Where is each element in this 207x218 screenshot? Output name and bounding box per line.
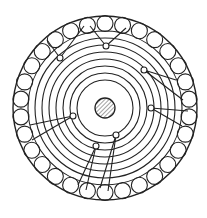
peripheral-circle — [24, 142, 40, 158]
peripheral-circle — [34, 43, 50, 59]
peripheral-circle — [170, 58, 186, 74]
peripheral-circle — [147, 32, 163, 48]
lead-line — [144, 70, 176, 80]
lead-node — [93, 143, 99, 149]
peripheral-circle — [97, 16, 113, 32]
lead-line — [90, 26, 106, 46]
peripheral-circle — [181, 109, 197, 125]
lead-node — [141, 67, 147, 73]
peripheral-circle — [17, 74, 33, 90]
peripheral-circle — [17, 126, 33, 142]
peripheral-circle — [181, 91, 197, 107]
lead-node — [148, 105, 154, 111]
lead-node — [113, 132, 119, 138]
peripheral-circle — [47, 168, 63, 184]
hatched-core — [95, 98, 115, 118]
core-circle — [95, 98, 115, 118]
peripheral-circle — [79, 17, 95, 33]
peripheral-circle — [24, 58, 40, 74]
peripheral-circle — [13, 109, 29, 125]
peripheral-circle — [131, 177, 147, 193]
peripheral-circle — [47, 32, 63, 48]
peripheral-circle — [63, 177, 79, 193]
peripheral-circle — [97, 185, 113, 201]
peripheral-circle — [160, 157, 176, 173]
diagram-canvas — [0, 0, 207, 218]
peripheral-circle — [13, 91, 29, 107]
cross-section-diagram — [0, 0, 207, 218]
peripheral-circle — [177, 74, 193, 90]
lead-line — [144, 70, 183, 100]
lead-node — [103, 43, 109, 49]
peripheral-circle — [131, 23, 147, 39]
lead-node — [57, 55, 63, 61]
peripheral-circle — [34, 157, 50, 173]
lead-node — [70, 113, 76, 119]
lead-line — [78, 146, 96, 185]
peripheral-circle — [115, 183, 131, 199]
peripheral-circle — [170, 142, 186, 158]
peripheral-circle — [160, 43, 176, 59]
peripheral-circle — [177, 126, 193, 142]
peripheral-circle — [147, 168, 163, 184]
